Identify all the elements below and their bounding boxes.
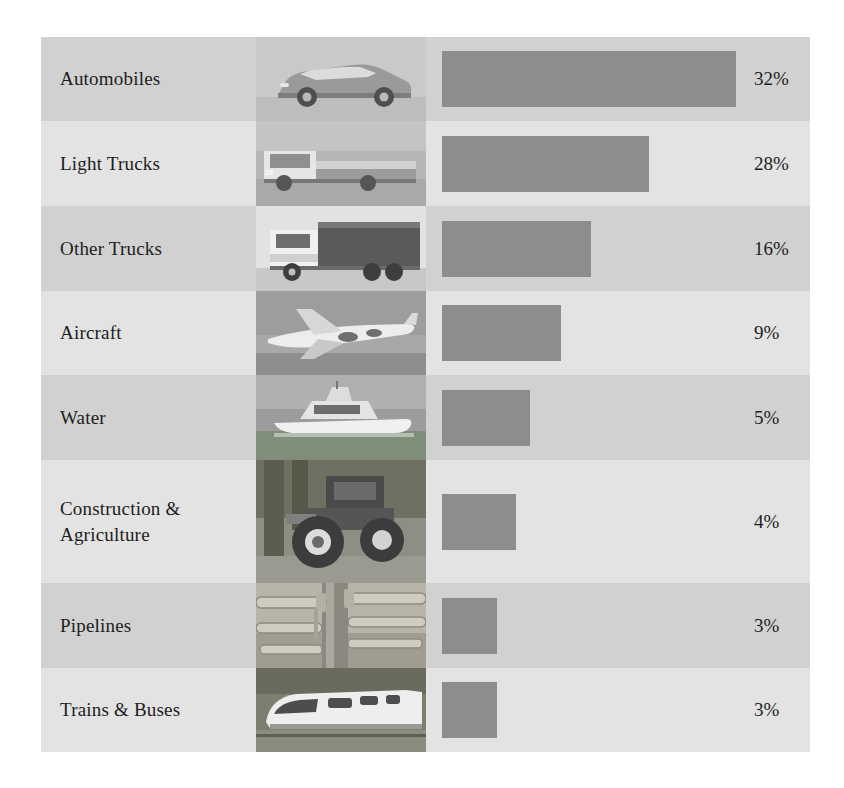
- row-thumbnail-cell: [256, 583, 426, 668]
- chart-row: Light Trucks 2: [41, 121, 810, 206]
- row-bar-cell: 9%: [426, 291, 810, 375]
- bar-value-label: 9%: [754, 322, 810, 344]
- category-label: Automobiles: [60, 66, 160, 91]
- bar-value-label: 3%: [754, 615, 810, 637]
- category-label: Other Trucks: [60, 236, 162, 261]
- row-label-cell: Aircraft: [41, 291, 256, 375]
- bar-value-label: 4%: [754, 511, 810, 533]
- chart-row: Water 5%: [41, 375, 810, 460]
- bar-value-label: 3%: [754, 699, 810, 721]
- row-bar-cell: 3%: [426, 583, 810, 668]
- bar: [442, 305, 561, 361]
- sedan-car-photo: [256, 37, 426, 121]
- bar: [442, 51, 736, 107]
- motor-yacht-photo: [256, 375, 426, 460]
- row-label-cell: Automobiles: [41, 37, 256, 121]
- row-bar-cell: 5%: [426, 375, 810, 460]
- row-label-cell: Light Trucks: [41, 121, 256, 206]
- row-thumbnail-cell: [256, 375, 426, 460]
- row-label-cell: Other Trucks: [41, 206, 256, 291]
- row-thumbnail-cell: [256, 460, 426, 583]
- category-label: Water: [60, 405, 106, 430]
- row-thumbnail-cell: [256, 291, 426, 375]
- row-label-cell: Pipelines: [41, 583, 256, 668]
- flatbed-light-truck-photo: [256, 121, 426, 206]
- horizontal-bar-chart: Automobiles 32%: [41, 37, 810, 752]
- farm-tractor-photo: [256, 460, 426, 583]
- chart-row: Pipelines: [41, 583, 810, 668]
- bar: [442, 494, 516, 550]
- high-speed-train-photo: [256, 668, 426, 752]
- bar: [442, 136, 649, 192]
- chart-row: Other Trucks: [41, 206, 810, 291]
- row-bar-cell: 32%: [426, 37, 810, 121]
- category-label: Pipelines: [60, 613, 131, 638]
- bar-value-label: 16%: [754, 238, 810, 260]
- semi-trailer-truck-photo: [256, 206, 426, 291]
- bar: [442, 682, 497, 738]
- row-label-cell: Trains & Buses: [41, 668, 256, 752]
- category-label: Aircraft: [60, 320, 122, 345]
- bar-value-label: 32%: [754, 68, 810, 90]
- bar-value-label: 28%: [754, 153, 810, 175]
- row-thumbnail-cell: [256, 206, 426, 291]
- category-label: Trains & Buses: [60, 697, 180, 722]
- bar-value-label: 5%: [754, 407, 810, 429]
- chart-row: Construction & Agriculture: [41, 460, 810, 583]
- row-bar-cell: 4%: [426, 460, 810, 583]
- row-thumbnail-cell: [256, 121, 426, 206]
- category-label: Construction & Agriculture: [60, 496, 250, 547]
- category-label: Light Trucks: [60, 151, 160, 176]
- bar: [442, 221, 591, 277]
- chart-row: Automobiles 32%: [41, 37, 810, 121]
- bar: [442, 390, 530, 446]
- row-bar-cell: 16%: [426, 206, 810, 291]
- chart-row: Trains & Buses 3%: [41, 668, 810, 752]
- row-label-cell: Construction & Agriculture: [41, 460, 256, 583]
- bar: [442, 598, 497, 654]
- row-bar-cell: 28%: [426, 121, 810, 206]
- pipeline-manifold-photo: [256, 583, 426, 668]
- airliner-photo: [256, 291, 426, 375]
- chart-row: Aircraft 9%: [41, 291, 810, 375]
- row-bar-cell: 3%: [426, 668, 810, 752]
- row-thumbnail-cell: [256, 668, 426, 752]
- row-label-cell: Water: [41, 375, 256, 460]
- row-thumbnail-cell: [256, 37, 426, 121]
